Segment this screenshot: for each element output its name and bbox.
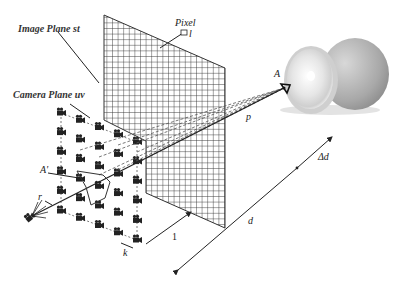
camera-icon <box>57 127 66 136</box>
a-prime-leader <box>48 173 79 178</box>
camera-icon <box>114 208 123 217</box>
camera-icon <box>133 215 142 224</box>
camera-icon <box>57 166 66 175</box>
camera-icon <box>95 122 104 131</box>
image-plane-leader <box>58 32 99 83</box>
image-plane-label: Image Plane st <box>18 24 80 34</box>
camera-plane-label: Camera Plane uv <box>13 90 85 100</box>
pixel-label: Pixel <box>175 18 196 28</box>
camera-icon <box>114 129 123 138</box>
camera-icon <box>57 186 66 195</box>
camera-icon <box>57 107 66 116</box>
pixel-square <box>181 30 187 35</box>
distance-d-label: d <box>248 216 253 226</box>
diagram-canvas <box>0 0 403 287</box>
camera-icon <box>76 193 85 202</box>
delta-d-label: Δd <box>318 152 329 162</box>
camera-icon <box>95 220 104 229</box>
camera-icon <box>76 134 85 143</box>
r-leader <box>45 201 52 205</box>
point-a-prime-label: A' <box>40 165 48 175</box>
viewer-camera <box>23 200 48 223</box>
unit-length-line <box>146 212 191 244</box>
camera-icon <box>114 227 123 236</box>
camera-icon <box>133 195 142 204</box>
camera-icon <box>76 213 85 222</box>
camera-icon <box>95 161 104 170</box>
ray-p-label: p <box>246 112 251 122</box>
camera-icon <box>76 154 85 163</box>
camera-icon <box>133 176 142 185</box>
camera-icon <box>133 234 142 243</box>
pixel-size-label: l <box>189 29 192 39</box>
unit-one-label: 1 <box>172 232 177 242</box>
spacing-k-label: k <box>123 248 127 258</box>
camera-icon <box>95 142 104 151</box>
point-a-label: A <box>274 69 280 79</box>
orange-photo <box>280 38 389 115</box>
light-field-diagram: Image Plane st Camera Plane uv Pixel l A… <box>0 0 403 287</box>
camera-icon <box>57 205 66 214</box>
camera-icon <box>114 188 123 197</box>
camera-icon <box>57 147 66 156</box>
camera-icon <box>76 115 85 124</box>
radius-r-label: r <box>38 192 42 202</box>
camera-icon <box>95 200 104 209</box>
